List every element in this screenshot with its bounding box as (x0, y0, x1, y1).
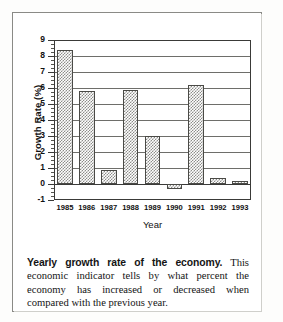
bar-1988 (123, 90, 139, 184)
y-tick-label: 9 (40, 34, 45, 44)
figure-caption: Yearly growth rate of the economy. This … (27, 256, 249, 310)
figure-frame: Growth Rate (%) 9876543210-1 19851986198… (12, 12, 262, 312)
bar-1990 (167, 184, 183, 189)
x-tick-label-1990: 1990 (163, 203, 185, 212)
bar-1986 (79, 91, 95, 184)
x-axis-tick-labels: 198519861987198819891990199119921993 (54, 203, 251, 217)
y-tick-label: 5 (40, 98, 45, 108)
y-tick-label: 2 (40, 146, 45, 156)
y-tick-label: -1 (37, 194, 45, 204)
bars-layer (54, 40, 251, 200)
y-tick-label: 4 (40, 114, 45, 124)
bar-1992 (210, 178, 226, 184)
caption-lead: Yearly growth rate of the economy. (27, 257, 222, 268)
x-tick-label-1989: 1989 (142, 203, 164, 212)
y-tick-label: 3 (40, 130, 45, 140)
bar-1989 (145, 136, 161, 184)
bar-1993 (232, 181, 248, 184)
figure-page: Growth Rate (%) 9876543210-1 19851986198… (0, 0, 283, 322)
bar-1987 (101, 170, 117, 184)
y-tick-label: 6 (40, 82, 45, 92)
x-tick-label-1992: 1992 (207, 203, 229, 212)
y-axis-ticks: 9876543210-1 (13, 40, 54, 200)
y-tick-label: 0 (40, 178, 45, 188)
x-tick-label-1986: 1986 (76, 203, 98, 212)
x-tick-label-1991: 1991 (185, 203, 207, 212)
y-tick-label: 7 (40, 66, 45, 76)
x-tick-label-1985: 1985 (54, 203, 76, 212)
y-tick-label: 8 (40, 50, 45, 60)
y-tick-label: 1 (40, 162, 45, 172)
bar-1985 (57, 50, 73, 184)
x-tick-label-1988: 1988 (120, 203, 142, 212)
x-tick-label-1987: 1987 (98, 203, 120, 212)
bar-1991 (188, 85, 204, 184)
bar-chart: Growth Rate (%) 9876543210-1 19851986198… (13, 19, 263, 245)
x-axis-title: Year (54, 219, 251, 230)
x-tick-label-1993: 1993 (229, 203, 251, 212)
